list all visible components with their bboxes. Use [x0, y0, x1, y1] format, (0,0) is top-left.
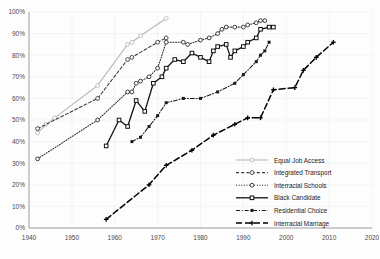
- y-tick-label: 40%: [12, 138, 25, 145]
- legend-item-residential-choice[interactable]: Residential Choice: [236, 207, 328, 214]
- legend-item-interracial-schools[interactable]: Interracial Schools: [236, 182, 327, 189]
- x-tick-label: 2010: [322, 234, 337, 241]
- legend-item-integrated-transport[interactable]: Integrated Transport: [236, 169, 332, 177]
- y-tick-label: 60%: [12, 95, 25, 102]
- y-tick-label: 30%: [12, 160, 25, 167]
- legend-label: Interracial Schools: [274, 182, 327, 189]
- y-tick-label: 10%: [12, 203, 25, 210]
- x-tick-label: 2020: [365, 234, 380, 241]
- y-tick-label: 70%: [12, 73, 25, 80]
- x-tick-label: 1940: [22, 234, 37, 241]
- y-tick-label: 20%: [12, 181, 25, 188]
- legend-label: Interracial Marriage: [274, 220, 329, 228]
- x-tick-label: 1960: [108, 234, 123, 241]
- x-tick-label: 2000: [279, 234, 294, 241]
- x-tick-label: 1990: [236, 234, 251, 241]
- x-tick-label: 1980: [193, 234, 208, 241]
- y-tick-label: 0%: [16, 224, 26, 231]
- line-chart: 0%10%20%30%40%50%60%70%80%90%100%1940195…: [0, 0, 380, 259]
- legend-label: Residential Choice: [274, 207, 328, 214]
- legend-label: Integrated Transport: [274, 169, 332, 177]
- x-tick-label: 1950: [65, 234, 80, 241]
- legend-item-black-candidate[interactable]: Black Candidate: [236, 194, 321, 201]
- y-tick-label: 100%: [8, 8, 25, 15]
- y-tick-label: 90%: [12, 30, 25, 37]
- y-tick-label: 80%: [12, 52, 25, 59]
- legend-label: Equal Job Access: [274, 157, 324, 165]
- legend-label: Black Candidate: [274, 194, 321, 201]
- y-tick-label: 50%: [12, 116, 25, 123]
- x-tick-label: 1970: [150, 234, 165, 241]
- chart-container: 0%10%20%30%40%50%60%70%80%90%100%1940195…: [0, 0, 380, 259]
- legend-item-interracial-marriage[interactable]: Interracial Marriage: [236, 220, 329, 228]
